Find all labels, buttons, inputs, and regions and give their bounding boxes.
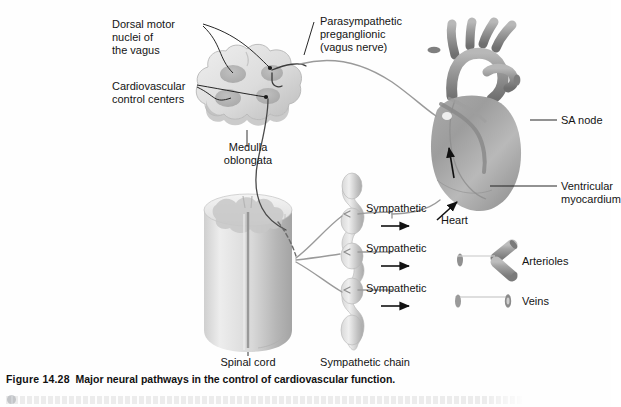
label-sympathetic-arterioles: Sympathetic xyxy=(366,242,427,255)
label-heart: Heart xyxy=(441,214,468,227)
label-sympathetic-heart: Sympathetic xyxy=(366,202,427,215)
label-medulla-oblongata: Medulla oblongata xyxy=(205,141,291,167)
spinal-cord xyxy=(204,194,292,352)
label-parasympathetic-preganglionic: Parasympathetic preganglionic (vagus ner… xyxy=(320,15,402,54)
sympathetic-chain xyxy=(341,173,364,350)
label-cardiovascular-control-centers: Cardiovascular control centers xyxy=(112,80,185,106)
label-dorsal-motor-nuclei: Dorsal motor nuclei of the vagus xyxy=(112,18,175,57)
medulla-oblongata xyxy=(196,44,301,125)
label-sympathetic-chain: Sympathetic chain xyxy=(300,356,430,369)
figure-caption: Figure 14.28 Major neural pathways in th… xyxy=(6,373,395,385)
label-sa-node: SA node xyxy=(561,114,603,127)
arteriole-vessel xyxy=(457,239,519,282)
label-spinal-cord: Spinal cord xyxy=(198,356,298,369)
figure-number: Figure 14.28 xyxy=(6,373,70,385)
label-arterioles: Arterioles xyxy=(522,255,568,268)
sa-node-marker xyxy=(442,112,452,120)
label-ventricular-myocardium: Ventricular myocardium xyxy=(561,180,621,206)
clipped-next-line xyxy=(6,396,526,404)
figure-caption-text: Major neural pathways in the control of … xyxy=(76,373,396,385)
label-sympathetic-veins: Sympathetic xyxy=(366,282,427,295)
label-veins: Veins xyxy=(522,295,549,308)
vein-vessel xyxy=(455,294,511,307)
dorsal-motor-nucleus-left xyxy=(220,65,246,83)
heart xyxy=(428,22,522,211)
